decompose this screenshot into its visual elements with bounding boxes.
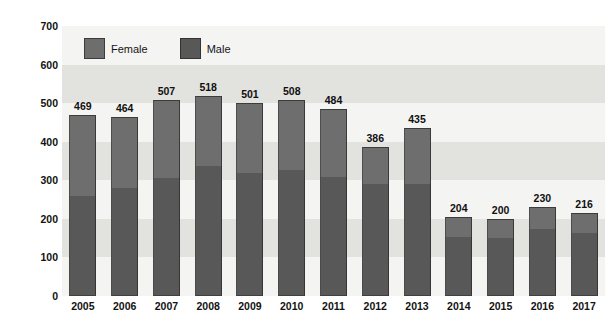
bar-value-label: 386 xyxy=(367,132,385,144)
x-tick-label: 2010 xyxy=(270,300,314,312)
bar-value-label: 435 xyxy=(408,113,426,125)
bar-group[interactable]: 464 xyxy=(111,26,138,296)
stacked-bar[interactable] xyxy=(362,147,389,296)
bar-value-label: 204 xyxy=(450,202,468,214)
bar-value-label: 508 xyxy=(283,85,301,97)
stacked-bar[interactable] xyxy=(195,96,222,296)
bar-value-label: 216 xyxy=(575,198,593,210)
y-tick-label: 0 xyxy=(14,290,58,302)
bar-group[interactable]: 200 xyxy=(487,26,514,296)
y-tick-label: 400 xyxy=(14,136,58,148)
bar-segment-female[interactable] xyxy=(111,117,138,188)
stacked-bar[interactable] xyxy=(571,213,598,296)
bar-group[interactable]: 484 xyxy=(320,26,347,296)
bar-segment-female[interactable] xyxy=(362,147,389,184)
bar-segment-male[interactable] xyxy=(445,237,472,296)
y-tick-label: 100 xyxy=(14,251,58,263)
bar-segment-female[interactable] xyxy=(278,100,305,170)
stacked-bar[interactable] xyxy=(278,100,305,296)
stacked-bar[interactable] xyxy=(236,103,263,296)
plot-area: 469464507518501508484386435204200230216 xyxy=(62,26,605,296)
bar-value-label: 507 xyxy=(158,85,176,97)
legend: Female Male xyxy=(84,38,231,59)
y-tick-label: 300 xyxy=(14,174,58,186)
legend-item-male: Male xyxy=(180,38,231,59)
bar-group[interactable]: 216 xyxy=(571,26,598,296)
bar-segment-female[interactable] xyxy=(69,115,96,196)
x-tick-label: 2006 xyxy=(103,300,147,312)
x-tick-label: 2015 xyxy=(479,300,523,312)
bar-segment-male[interactable] xyxy=(362,184,389,296)
stacked-bar[interactable] xyxy=(487,219,514,296)
stacked-bar-chart: 469464507518501508484386435204200230216 … xyxy=(0,0,612,331)
bar-segment-male[interactable] xyxy=(195,166,222,296)
bar-value-label: 501 xyxy=(241,88,259,100)
bar-group[interactable]: 508 xyxy=(278,26,305,296)
bar-group[interactable]: 435 xyxy=(404,26,431,296)
bar-segment-male[interactable] xyxy=(278,170,305,296)
bar-group[interactable]: 204 xyxy=(445,26,472,296)
bar-group[interactable]: 518 xyxy=(195,26,222,296)
stacked-bar[interactable] xyxy=(320,109,347,296)
bar-segment-female[interactable] xyxy=(404,128,431,184)
bar-value-label: 484 xyxy=(325,94,343,106)
bar-group[interactable]: 386 xyxy=(362,26,389,296)
bar-segment-female[interactable] xyxy=(529,207,556,229)
bar-segment-female[interactable] xyxy=(445,217,472,237)
bar-value-label: 469 xyxy=(74,100,92,112)
x-tick-label: 2007 xyxy=(144,300,188,312)
bar-segment-male[interactable] xyxy=(404,184,431,296)
y-tick-label: 500 xyxy=(14,97,58,109)
bar-segment-female[interactable] xyxy=(571,213,598,233)
y-tick-label: 600 xyxy=(14,59,58,71)
stacked-bar[interactable] xyxy=(404,128,431,296)
stacked-bar[interactable] xyxy=(69,115,96,296)
x-tick-label: 2011 xyxy=(312,300,356,312)
legend-item-female: Female xyxy=(84,38,148,59)
stacked-bar[interactable] xyxy=(445,217,472,296)
x-tick-label: 2013 xyxy=(395,300,439,312)
bar-segment-male[interactable] xyxy=(69,196,96,296)
x-tick-label: 2017 xyxy=(562,300,606,312)
bar-segment-male[interactable] xyxy=(487,238,514,296)
bar-segment-male[interactable] xyxy=(529,229,556,296)
bar-value-label: 518 xyxy=(199,81,217,93)
bar-segment-female[interactable] xyxy=(195,96,222,165)
bar-segment-male[interactable] xyxy=(236,173,263,296)
bar-segment-female[interactable] xyxy=(320,109,347,177)
bar-segment-female[interactable] xyxy=(236,103,263,173)
bars-layer: 469464507518501508484386435204200230216 xyxy=(62,26,605,296)
bar-segment-male[interactable] xyxy=(320,177,347,296)
bar-segment-male[interactable] xyxy=(153,178,180,296)
bar-segment-male[interactable] xyxy=(571,233,598,296)
x-tick-label: 2009 xyxy=(228,300,272,312)
bar-value-label: 200 xyxy=(492,204,510,216)
bar-group[interactable]: 507 xyxy=(153,26,180,296)
legend-label-male: Male xyxy=(207,43,231,55)
stacked-bar[interactable] xyxy=(111,117,138,296)
y-tick-label: 700 xyxy=(14,20,58,32)
bar-value-label: 230 xyxy=(534,192,552,204)
legend-swatch-female-icon xyxy=(84,38,105,59)
x-tick-label: 2012 xyxy=(353,300,397,312)
bar-group[interactable]: 230 xyxy=(529,26,556,296)
bar-value-label: 464 xyxy=(116,102,134,114)
bar-segment-male[interactable] xyxy=(111,188,138,296)
y-tick-label: 200 xyxy=(14,213,58,225)
x-tick-label: 2005 xyxy=(61,300,105,312)
bar-group[interactable]: 501 xyxy=(236,26,263,296)
bar-group[interactable]: 469 xyxy=(69,26,96,296)
x-tick-label: 2008 xyxy=(186,300,230,312)
stacked-bar[interactable] xyxy=(529,207,556,296)
x-tick-label: 2016 xyxy=(520,300,564,312)
bar-segment-female[interactable] xyxy=(153,100,180,177)
legend-label-female: Female xyxy=(111,43,148,55)
legend-swatch-male-icon xyxy=(180,38,201,59)
bar-segment-female[interactable] xyxy=(487,219,514,238)
stacked-bar[interactable] xyxy=(153,100,180,296)
x-tick-label: 2014 xyxy=(437,300,481,312)
